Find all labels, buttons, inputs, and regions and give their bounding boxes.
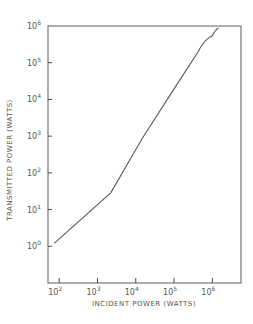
x-axis-label: INCIDENT POWER (WATTS) [92, 300, 196, 308]
data-curve [54, 28, 218, 244]
y-tick-label: 103 [27, 129, 41, 141]
chart: 102103104105106 100101102103104105106 IN… [0, 0, 253, 324]
plot-frame [48, 26, 241, 283]
x-tick-label: 103 [86, 285, 100, 297]
y-tick-label: 100 [27, 239, 41, 251]
x-tick-label: 105 [163, 285, 177, 297]
y-tick-label: 102 [27, 166, 41, 178]
y-tick-label: 106 [27, 19, 41, 31]
y-axis-label: TRANSMITTED POWER (WATTS) [6, 99, 14, 222]
x-axis-ticks: 102103104105106 [48, 278, 215, 297]
x-tick-label: 104 [125, 285, 139, 297]
x-tick-label: 106 [201, 285, 215, 297]
y-tick-label: 105 [27, 56, 41, 68]
x-tick-label: 102 [48, 285, 62, 297]
y-tick-label: 101 [27, 203, 41, 215]
y-tick-label: 104 [27, 92, 41, 104]
